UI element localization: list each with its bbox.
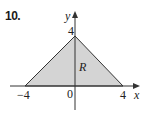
x-axis-label: x: [133, 88, 140, 102]
region-label: R: [78, 60, 87, 74]
region-r: [25, 36, 123, 86]
y-tick-4: 4: [68, 24, 74, 38]
x-tick-neg4: −4: [17, 88, 30, 102]
region-diagram: y 4 R −4 0 4 x: [0, 0, 146, 116]
y-axis-arrow-icon: [72, 11, 78, 18]
y-axis-label: y: [64, 9, 71, 23]
x-tick-4: 4: [120, 88, 126, 102]
origin-label: 0: [67, 87, 73, 101]
